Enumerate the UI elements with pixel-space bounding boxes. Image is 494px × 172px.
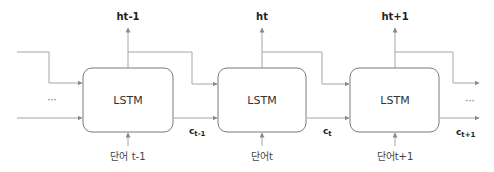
input-word-label-3: 단어t+1 (377, 148, 414, 163)
lstm-cell-label-2: LSTM (247, 94, 276, 107)
hidden-output-label-3: ht+1 (381, 11, 408, 22)
cell-state-label-2: ct (323, 126, 332, 138)
hidden-output-label-2: ht (256, 11, 268, 22)
cell-state-label-3: ct+1 (456, 127, 475, 139)
lstm-cell-label-3: LSTM (380, 94, 409, 107)
input-word-label-1: 단어 t-1 (110, 148, 145, 163)
cell-state-label-1: ct-1 (189, 126, 205, 138)
ellipsis-right: ··· (465, 95, 475, 106)
hidden-output-label-1: ht-1 (116, 11, 139, 22)
incoming-hidden-line (17, 52, 82, 83)
ellipsis-left: ··· (47, 94, 57, 105)
lstm-cell-label-1: LSTM (113, 94, 142, 107)
input-word-label-2: 단어t (251, 148, 273, 163)
diagram-canvas (0, 0, 494, 172)
